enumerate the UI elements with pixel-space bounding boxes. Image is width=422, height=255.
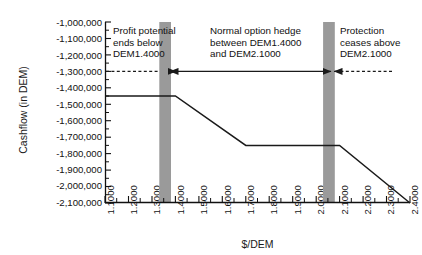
note-line: ends below [113, 37, 193, 49]
note-line: ceases above [340, 37, 418, 49]
note-line: DEM1.4000 [113, 48, 193, 60]
normal-hedge-note: Normal option hedge between DEM1.4000 an… [210, 25, 315, 60]
cashflow-chart: Cashflow (in DEM) -1,000,000 -1,100,000 … [0, 0, 422, 255]
cashflow-series-line [106, 96, 411, 203]
protection-ceases-note: Protection ceases above DEM2.1000 [340, 25, 418, 60]
note-line: Profit potential [113, 25, 193, 37]
note-line: between DEM1.4000 [210, 37, 315, 49]
note-line: Normal option hedge [210, 25, 315, 37]
note-line: and DEM2.1000 [210, 48, 315, 60]
note-line: Protection [340, 25, 418, 37]
profit-potential-note: Profit potential ends below DEM1.4000 [113, 25, 193, 60]
note-line: DEM2.1000 [340, 48, 418, 60]
band-dem21 [323, 22, 335, 203]
